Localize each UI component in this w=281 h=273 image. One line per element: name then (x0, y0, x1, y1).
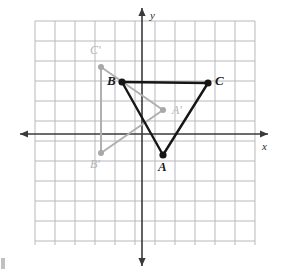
page-corner-mark (1, 258, 5, 269)
grid-lines (35, 21, 255, 245)
y-axis-label: y (150, 10, 155, 21)
vertex-label-a-prime: A' (172, 104, 182, 116)
preimage-triangle-vertices (118, 78, 211, 158)
diagram-canvas: y x A B C A' B' C' (0, 0, 281, 273)
vertex-label-b-prime: B' (90, 158, 100, 170)
x-axis-label: x (262, 141, 267, 152)
coordinate-plane-figure (0, 0, 281, 273)
vertex-label-c: C (215, 74, 224, 87)
vertex-label-b: B (107, 74, 116, 87)
axis-lines (20, 8, 268, 266)
vertex-label-a: A (158, 160, 167, 173)
vertex-label-c-prime: C' (90, 44, 101, 56)
